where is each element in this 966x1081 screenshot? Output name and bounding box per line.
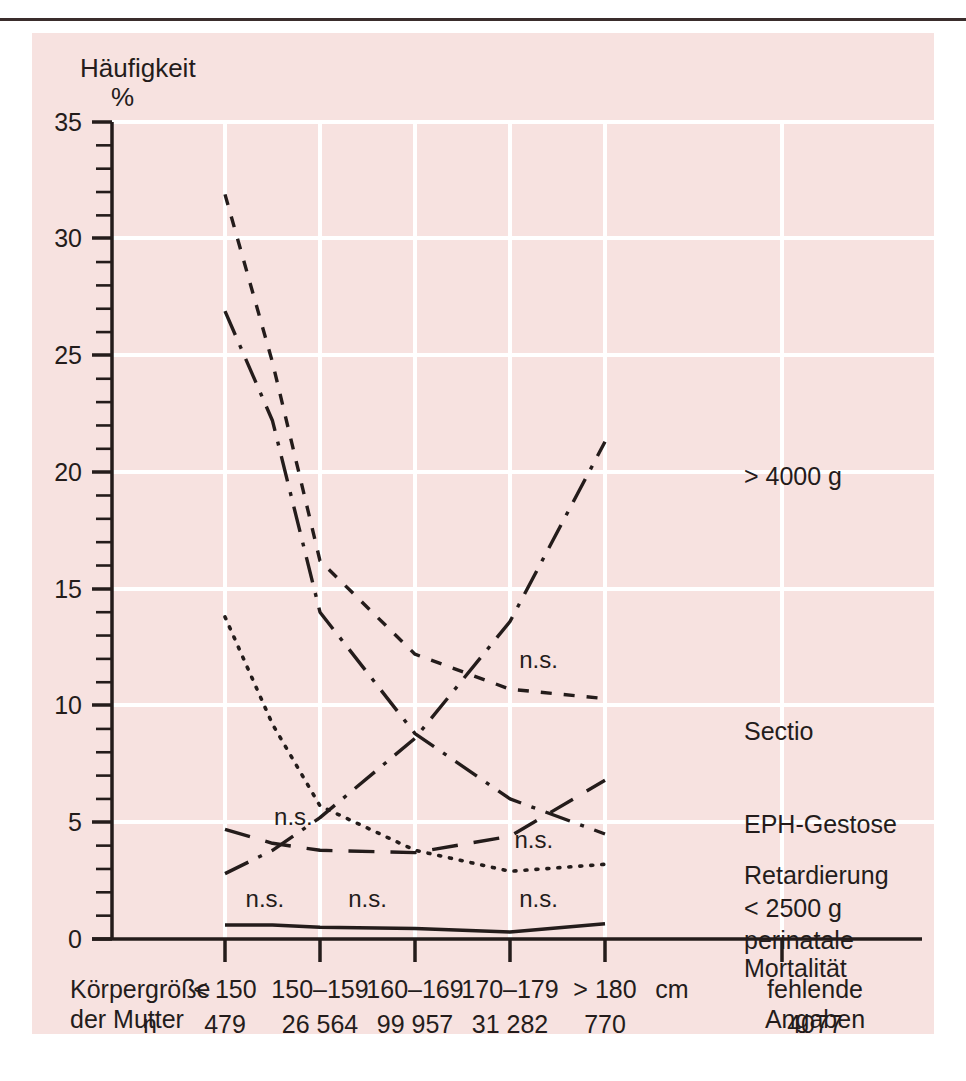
y-axis-title-line2: % (111, 82, 134, 112)
series-label-perinatale-line1: perinatale (744, 926, 854, 954)
page-top-rule (0, 18, 966, 21)
x-tick-label: > 180 (573, 975, 636, 1003)
n-value: 479 (204, 1010, 246, 1034)
annotation-ns: n.s. (519, 885, 558, 912)
annotation-ns: n.s. (348, 885, 387, 912)
y-tick-label: 15 (54, 575, 82, 603)
y-tick-label: 20 (54, 458, 82, 486)
y-axis-title: Häufigkeit % (80, 53, 196, 112)
y-tick-label: 25 (54, 341, 82, 369)
figure-panel: 0 5 10 15 20 25 30 35 Häufigkeit % (32, 33, 934, 1034)
x-tick-label: < 150 (193, 975, 256, 1003)
x-tick-label: 150–159 (271, 975, 368, 1003)
n-value-extra: 4077 (787, 1010, 843, 1034)
x-tick-label: 170–179 (461, 975, 558, 1003)
y-tick-label: 5 (68, 808, 82, 836)
x-axis-caption: Körpergröße der Mutter (70, 975, 210, 1033)
series-label-4000g: > 4000 g (744, 462, 842, 490)
line-chart: 0 5 10 15 20 25 30 35 Häufigkeit % (32, 33, 934, 1034)
y-tick-label: 0 (68, 925, 82, 953)
x-caption-line1: Körpergröße (70, 975, 210, 1003)
y-axis-major-ticks (92, 122, 112, 939)
n-value: 99 957 (377, 1010, 453, 1034)
y-tick-label: 35 (54, 108, 82, 136)
annotation-ns: n.s. (519, 646, 558, 673)
page-root: 0 5 10 15 20 25 30 35 Häufigkeit % (0, 0, 966, 1081)
y-tick-label: 10 (54, 691, 82, 719)
series-label-sectio: Sectio (744, 717, 813, 745)
series-label-retardierung: Retardierung (744, 861, 889, 889)
n-value: 770 (584, 1010, 626, 1034)
n-row-label: n (143, 1010, 157, 1034)
series-labels: > 4000 g Sectio EPH-Gestose Retardierung… (744, 462, 897, 982)
n-value: 31 282 (472, 1010, 548, 1034)
y-tick-label: 30 (54, 224, 82, 252)
n-value: 26 564 (282, 1010, 359, 1034)
annotation-ns: n.s. (246, 885, 285, 912)
y-axis-tick-labels: 0 5 10 15 20 25 30 35 (54, 108, 82, 953)
x-axis-ticks (225, 939, 782, 962)
annotation-ns: n.s. (274, 803, 313, 830)
x-caption-line2: der Mutter (70, 1005, 184, 1033)
series-label-2500g: < 2500 g (744, 894, 842, 922)
annotation-ns: n.s. (514, 826, 553, 853)
x-axis-unit: cm (655, 975, 688, 1003)
series-label-eph-gestose: EPH-Gestose (744, 810, 897, 838)
x-tick-label: 160–169 (366, 975, 463, 1003)
y-axis-title-line1: Häufigkeit (80, 53, 196, 83)
x-extra-label-line1: fehlende (767, 975, 863, 1003)
n-row: n 479 26 564 99 957 31 282 770 4077 (143, 1010, 843, 1034)
y-axis-minor-ticks (96, 145, 112, 915)
